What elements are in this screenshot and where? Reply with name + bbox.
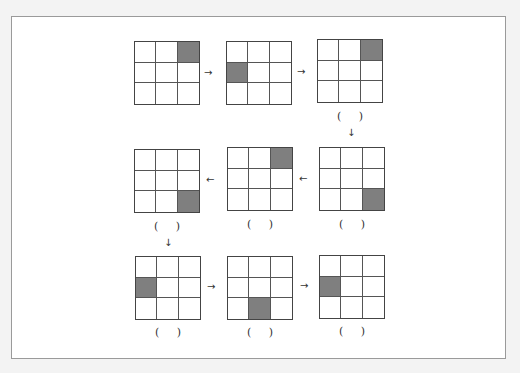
grid-cell [227,42,248,63]
grid-cell [156,83,177,104]
grid-cell [178,63,199,84]
grid-cell [135,63,156,84]
grid-r2-c1 [134,149,200,213]
grid-cell [157,257,178,278]
grid-cell [156,171,177,192]
answer-blank-r3-c3[interactable]: ( ) [319,325,385,338]
grid-r2-c3 [319,147,385,211]
grid-cell [179,298,200,319]
answer-blank-r3-c2[interactable]: ( ) [227,326,293,339]
grid-cell [271,278,292,299]
grid-cell [270,42,291,63]
grid-r2-c2 [227,147,293,211]
answer-blank-r2-c3[interactable]: ( ) [319,218,385,231]
grid-cell [157,278,178,299]
grid-cell [318,40,339,61]
grid-cell [249,148,270,169]
grid-cell [320,189,341,210]
grid-cell [341,189,362,210]
grid-cell [320,148,341,169]
grid-cell [179,257,200,278]
grid-cell [339,61,360,82]
shaded-cell [249,298,270,319]
grid-cell [363,297,384,318]
arrow-right-icon: → [300,281,308,291]
grid-cell [339,40,360,61]
arrow-right-icon: → [297,67,305,77]
shaded-cell [363,189,384,210]
grid-cell [156,191,177,212]
grid-cell [248,63,269,84]
grid-cell [271,257,292,278]
grid-cell [228,278,249,299]
grid-cell [341,277,362,298]
shaded-cell [320,277,341,298]
grid-cell [341,297,362,318]
arrow-left-icon: ← [299,174,307,184]
grid-cell [363,256,384,277]
grid-cell [341,148,362,169]
grid-cell [228,148,249,169]
grid-cell [228,189,249,210]
grid-cell [157,298,178,319]
grid-cell [248,42,269,63]
shaded-cell [361,40,382,61]
grid-cell [363,277,384,298]
shaded-cell [271,148,292,169]
grid-cell [135,150,156,171]
shaded-cell [178,191,199,212]
grid-cell [361,61,382,82]
grid-cell [249,189,270,210]
grid-cell [178,83,199,104]
answer-blank-r2-c1[interactable]: ( ) [134,220,200,233]
grid-cell [320,256,341,277]
grid-cell [270,83,291,104]
grid-cell [249,257,270,278]
grid-cell [179,278,200,299]
grid-cell [363,148,384,169]
arrow-down-icon: ↓ [164,238,172,248]
arrow-left-icon: ← [206,175,214,185]
grid-cell [249,169,270,190]
grid-cell [271,298,292,319]
arrow-right-icon: → [204,68,212,78]
answer-blank-r2-c2[interactable]: ( ) [227,218,293,231]
grid-cell [341,169,362,190]
grid-cell [156,42,177,63]
grid-cell [135,83,156,104]
grid-cell [271,189,292,210]
grid-cell [135,42,156,63]
grid-cell [135,191,156,212]
arrow-right-icon: → [207,282,215,292]
grid-cell [320,297,341,318]
shaded-cell [136,278,157,299]
grid-cell [271,169,292,190]
grid-cell [136,298,157,319]
grid-cell [135,171,156,192]
grid-cell [228,169,249,190]
grid-r1-c1 [134,41,200,105]
grid-cell [339,81,360,102]
grid-cell [248,83,269,104]
grid-cell [178,150,199,171]
grid-cell [320,169,341,190]
arrow-down-icon: ↓ [347,128,355,138]
grid-cell [361,81,382,102]
shaded-cell [178,42,199,63]
grid-cell [178,171,199,192]
grid-cell [363,169,384,190]
grid-r3-c1 [135,256,201,320]
grid-cell [156,150,177,171]
grid-cell [227,83,248,104]
grid-r1-c3 [317,39,383,103]
grid-r3-c2 [227,256,293,320]
grid-cell [228,298,249,319]
answer-blank-r1-c3[interactable]: ( ) [317,110,383,123]
answer-blank-r3-c1[interactable]: ( ) [135,326,201,339]
grid-cell [318,61,339,82]
grid-cell [318,81,339,102]
grid-cell [156,63,177,84]
grid-cell [136,257,157,278]
grid-cell [341,256,362,277]
grid-cell [249,278,270,299]
